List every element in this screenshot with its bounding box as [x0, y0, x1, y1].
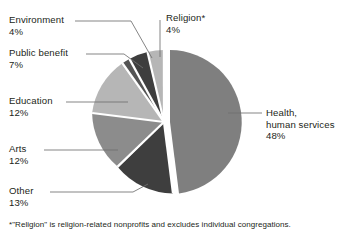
- leader-line-other: [50, 184, 148, 192]
- label-name-arts: Arts: [9, 143, 29, 155]
- label-pct-environment: 4%: [9, 26, 64, 38]
- label-name-religion: Religion*: [166, 12, 205, 24]
- pie-slice-health-human-services[interactable]: [170, 50, 242, 193]
- label-name-health-line2: human services: [266, 119, 335, 131]
- callout-label-health-human-services: Health, human services 48%: [266, 107, 335, 142]
- callout-label-environment: Environment 4%: [9, 14, 64, 37]
- label-pct-religion: 4%: [166, 24, 205, 36]
- pie-chart-figure: Environment 4% Public benefit 7% Educati…: [0, 0, 347, 238]
- label-name-environment: Environment: [9, 14, 64, 26]
- callout-label-education: Education 12%: [9, 95, 53, 118]
- chart-footnote: *"Religion" is religion-related nonprofi…: [9, 220, 291, 230]
- label-name-education: Education: [9, 95, 53, 107]
- callout-label-arts: Arts 12%: [9, 143, 29, 166]
- leader-line-environment: [75, 21, 152, 58]
- label-name-health-line1: Health,: [266, 107, 335, 119]
- callout-label-public-benefit: Public benefit 7%: [9, 47, 68, 70]
- label-pct-other: 13%: [9, 197, 34, 209]
- label-pct-education: 12%: [9, 107, 53, 119]
- label-pct-public-benefit: 7%: [9, 59, 68, 71]
- callout-label-other: Other 13%: [9, 185, 34, 208]
- label-name-other: Other: [9, 185, 34, 197]
- label-name-public-benefit: Public benefit: [9, 47, 68, 59]
- callout-label-religion: Religion* 4%: [166, 12, 205, 35]
- label-pct-arts: 12%: [9, 155, 29, 167]
- label-pct-health: 48%: [266, 130, 335, 142]
